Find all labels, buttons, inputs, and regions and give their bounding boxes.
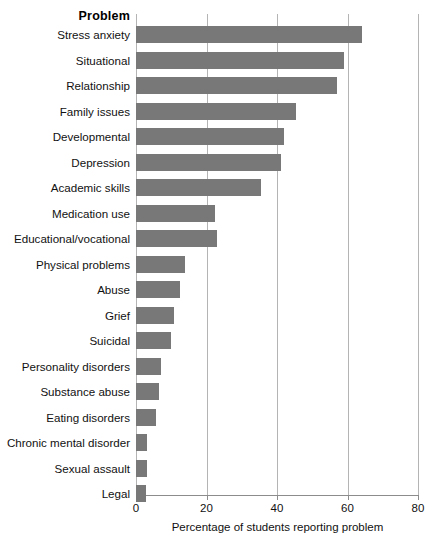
category-axis-heading: Problem	[0, 9, 130, 23]
bar-row: Sexual assault	[0, 456, 437, 482]
category-label: Grief	[0, 307, 130, 324]
bar	[136, 205, 215, 222]
bar-chart: Problem Percentage of students reporting…	[0, 0, 437, 546]
bar	[136, 256, 185, 273]
x-axis-title: Percentage of students reporting problem	[136, 521, 419, 533]
bar-row: Relationship	[0, 73, 437, 99]
bar-row: Situational	[0, 48, 437, 74]
bar	[136, 52, 344, 69]
bar-row: Educational/vocational	[0, 226, 437, 252]
bar-row: Abuse	[0, 277, 437, 303]
category-label: Eating disorders	[0, 409, 130, 426]
bar-row: Family issues	[0, 99, 437, 125]
bar-row: Substance abuse	[0, 379, 437, 405]
bar-row: Legal	[0, 481, 437, 507]
bar	[136, 230, 217, 247]
bar-row: Physical problems	[0, 252, 437, 278]
category-label: Abuse	[0, 281, 130, 298]
category-label: Medication use	[0, 205, 130, 222]
bar-row: Personality disorders	[0, 354, 437, 380]
bar-row: Chronic mental disorder	[0, 430, 437, 456]
category-label: Sexual assault	[0, 460, 130, 477]
bar	[136, 358, 161, 375]
bar	[136, 409, 156, 426]
bar-row: Eating disorders	[0, 405, 437, 431]
category-label: Substance abuse	[0, 383, 130, 400]
bar-row: Stress anxiety	[0, 22, 437, 48]
bar	[136, 307, 174, 324]
category-label: Stress anxiety	[0, 26, 130, 43]
category-label: Academic skills	[0, 179, 130, 196]
bar	[136, 179, 261, 196]
category-label: Legal	[0, 485, 130, 502]
bar-row: Developmental	[0, 124, 437, 150]
category-label: Situational	[0, 52, 130, 69]
bar-row: Depression	[0, 150, 437, 176]
category-label: Personality disorders	[0, 358, 130, 375]
bar	[136, 434, 147, 451]
category-label: Family issues	[0, 103, 130, 120]
category-label: Depression	[0, 154, 130, 171]
category-label: Physical problems	[0, 256, 130, 273]
category-label: Educational/vocational	[0, 230, 130, 247]
category-label: Developmental	[0, 128, 130, 145]
bar	[136, 485, 146, 502]
bar	[136, 128, 284, 145]
bar	[136, 281, 180, 298]
category-label: Chronic mental disorder	[0, 434, 130, 451]
bar-row: Suicidal	[0, 328, 437, 354]
category-label: Suicidal	[0, 332, 130, 349]
bar	[136, 77, 337, 94]
category-label: Relationship	[0, 77, 130, 94]
bar	[136, 332, 171, 349]
bar	[136, 460, 147, 477]
bar	[136, 383, 159, 400]
bar	[136, 154, 281, 171]
bar-row: Academic skills	[0, 175, 437, 201]
bar-row: Grief	[0, 303, 437, 329]
bar	[136, 26, 362, 43]
bar-row: Medication use	[0, 201, 437, 227]
bar	[136, 103, 296, 120]
